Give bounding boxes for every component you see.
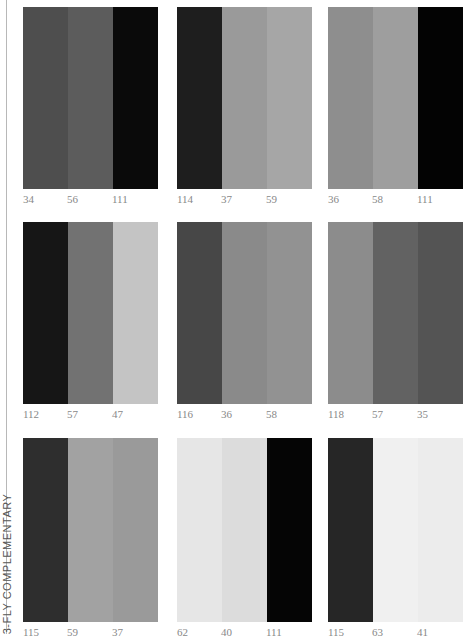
color-stripe	[373, 438, 418, 622]
color-swatch: 1143759	[177, 7, 312, 209]
color-code-label: 56	[67, 193, 78, 205]
color-stripe	[177, 222, 222, 404]
color-stripe	[222, 222, 267, 404]
swatch-labels: 1155937	[23, 626, 158, 641]
color-stripe	[373, 222, 418, 404]
color-stripe	[68, 7, 113, 189]
swatch-labels: 1156341	[328, 626, 463, 641]
color-code-label: 59	[266, 193, 277, 205]
color-stripe	[418, 222, 463, 404]
color-swatch: 3456111	[23, 7, 158, 209]
color-code-label: 34	[23, 193, 34, 205]
color-stripe	[23, 7, 68, 189]
color-code-label: 41	[417, 626, 428, 638]
color-code-label: 36	[221, 408, 232, 420]
color-stripe	[267, 7, 312, 189]
side-label: 3-FLY COMPLEMENTARY	[1, 484, 13, 641]
color-stripe	[23, 438, 68, 622]
color-code-label: 111	[417, 193, 433, 205]
swatch-stripes	[177, 222, 312, 404]
color-swatch: 1125747	[23, 222, 158, 424]
color-code-label: 57	[67, 408, 78, 420]
color-stripe	[177, 438, 222, 622]
color-stripe	[222, 438, 267, 622]
swatch-stripes	[177, 7, 312, 189]
color-code-label: 37	[112, 626, 123, 638]
color-swatch: 6240111	[177, 438, 312, 641]
color-swatch: 1163658	[177, 222, 312, 424]
swatch-labels: 3456111	[23, 193, 158, 209]
color-code-label: 40	[221, 626, 232, 638]
color-stripe	[222, 7, 267, 189]
swatch-stripes	[23, 438, 158, 622]
color-stripe	[373, 7, 418, 189]
color-stripe	[267, 222, 312, 404]
color-stripe	[328, 438, 373, 622]
color-stripe	[113, 7, 158, 189]
color-code-label: 37	[221, 193, 232, 205]
swatch-stripes	[177, 438, 312, 622]
color-stripe	[418, 438, 463, 622]
color-swatch: 1155937	[23, 438, 158, 641]
color-code-label: 58	[372, 193, 383, 205]
swatch-labels: 1163658	[177, 408, 312, 424]
color-stripe	[328, 222, 373, 404]
color-code-label: 111	[112, 193, 128, 205]
swatch-stripes	[23, 7, 158, 189]
swatch-stripes	[23, 222, 158, 404]
swatch-labels: 6240111	[177, 626, 312, 641]
color-code-label: 57	[372, 408, 383, 420]
swatch-stripes	[328, 222, 463, 404]
color-code-label: 58	[266, 408, 277, 420]
color-stripe	[328, 7, 373, 189]
swatch-stripes	[328, 438, 463, 622]
color-swatch: 3658111	[328, 7, 463, 209]
color-stripe	[418, 7, 463, 189]
color-code-label: 115	[23, 626, 39, 638]
color-code-label: 47	[112, 408, 123, 420]
color-code-label: 114	[177, 193, 193, 205]
swatch-stripes	[328, 7, 463, 189]
color-stripe	[68, 438, 113, 622]
color-swatch: 1185735	[328, 222, 463, 424]
color-code-label: 59	[67, 626, 78, 638]
swatch-labels: 1125747	[23, 408, 158, 424]
color-code-label: 35	[417, 408, 428, 420]
swatch-labels: 1143759	[177, 193, 312, 209]
swatch-labels: 3658111	[328, 193, 463, 209]
color-code-label: 112	[23, 408, 39, 420]
color-stripe	[267, 438, 312, 622]
color-stripe	[68, 222, 113, 404]
color-code-label: 118	[328, 408, 344, 420]
color-stripe	[23, 222, 68, 404]
color-swatch: 1156341	[328, 438, 463, 641]
color-code-label: 62	[177, 626, 188, 638]
swatch-labels: 1185735	[328, 408, 463, 424]
color-stripe	[177, 7, 222, 189]
color-code-label: 116	[177, 408, 193, 420]
color-code-label: 36	[328, 193, 339, 205]
color-stripe	[113, 222, 158, 404]
color-code-label: 63	[372, 626, 383, 638]
color-stripe	[113, 438, 158, 622]
color-code-label: 115	[328, 626, 344, 638]
color-code-label: 111	[266, 626, 282, 638]
